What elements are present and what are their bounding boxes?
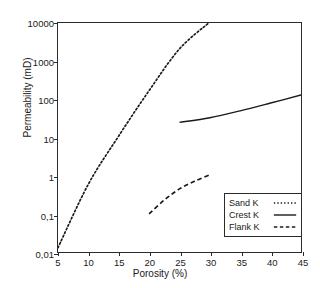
x-tick-mark xyxy=(242,252,243,256)
x-tick-label: 15 xyxy=(114,257,125,268)
x-axis-title: Porosity (%) xyxy=(0,268,320,279)
x-tick-mark xyxy=(303,252,304,256)
legend-item: Sand K xyxy=(229,197,297,209)
series-line xyxy=(58,23,209,248)
legend-line-sample xyxy=(273,222,297,232)
y-tick-mark xyxy=(54,100,58,101)
x-tick-label: 25 xyxy=(175,257,186,268)
x-tick-mark xyxy=(272,252,273,256)
legend-item-label: Crest K xyxy=(229,210,273,220)
x-tick-label: 30 xyxy=(206,257,217,268)
y-tick-mark xyxy=(54,177,58,178)
x-tick-mark xyxy=(181,252,182,256)
x-tick-mark xyxy=(89,252,90,256)
x-tick-mark xyxy=(150,252,151,256)
x-tick-label: 10 xyxy=(83,257,94,268)
series-line xyxy=(180,95,302,122)
y-tick-label: 100 xyxy=(38,95,54,106)
plot-area: 0,010,1110100100010000 51015202530354045… xyxy=(57,22,302,253)
y-tick-label: 10 xyxy=(43,133,54,144)
y-axis-title: Permeability (mD) xyxy=(22,18,33,178)
y-tick-label: 0,01 xyxy=(36,249,55,260)
x-tick-mark xyxy=(119,252,120,256)
y-tick-mark xyxy=(54,62,58,63)
series-line xyxy=(149,175,210,214)
x-tick-label: 35 xyxy=(236,257,247,268)
chart-legend: Sand KCrest KFlank K xyxy=(224,193,302,237)
y-tick-mark xyxy=(54,216,58,217)
x-tick-label: 45 xyxy=(298,257,309,268)
x-tick-label: 40 xyxy=(267,257,278,268)
y-tick-label: 0,1 xyxy=(41,210,54,221)
x-tick-mark xyxy=(58,252,59,256)
legend-line-sample xyxy=(273,210,297,220)
permeability-porosity-chart: 0,010,1110100100010000 51015202530354045… xyxy=(0,0,320,288)
x-tick-label: 20 xyxy=(145,257,156,268)
legend-item-label: Flank K xyxy=(229,222,273,232)
x-tick-mark xyxy=(211,252,212,256)
y-tick-label: 1000 xyxy=(33,56,54,67)
legend-item-label: Sand K xyxy=(229,198,273,208)
y-tick-mark xyxy=(54,139,58,140)
legend-line-sample xyxy=(273,198,297,208)
x-tick-label: 5 xyxy=(55,257,60,268)
y-tick-mark xyxy=(54,23,58,24)
legend-item: Flank K xyxy=(229,221,297,233)
legend-item: Crest K xyxy=(229,209,297,221)
